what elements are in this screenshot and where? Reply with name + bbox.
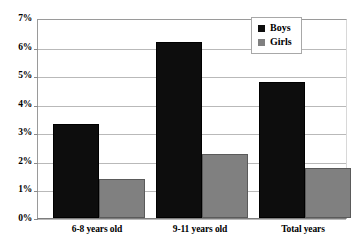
y-tick-label: 1% <box>18 186 32 196</box>
y-tick-label: 4% <box>18 100 32 110</box>
legend-label-boys: Boys <box>270 23 291 33</box>
y-tick-label: 2% <box>18 157 32 167</box>
bar-group <box>156 20 246 218</box>
legend-item-girls[interactable]: Girls <box>258 35 292 49</box>
y-tick-label: 5% <box>18 71 32 81</box>
y-tick-label: 0% <box>18 214 32 224</box>
bar-girls[interactable] <box>202 154 248 218</box>
bar-chart: 7% 6% 5% 4% 3% 2% 1% 0% <box>0 0 362 248</box>
legend-label-girls: Girls <box>270 37 292 47</box>
y-tick-label: 3% <box>18 129 32 139</box>
gridline <box>38 219 346 220</box>
x-category-label: Total years <box>281 224 325 234</box>
bar-group <box>53 20 143 218</box>
y-tickmark <box>34 219 38 220</box>
y-tick-label: 7% <box>18 14 32 24</box>
bar-boys[interactable] <box>53 124 99 218</box>
y-axis: 7% 6% 5% 4% 3% 2% 1% 0% <box>0 0 36 248</box>
y-tick-label: 6% <box>18 43 32 53</box>
legend: Boys Girls <box>251 17 302 54</box>
legend-swatch-girls-icon <box>258 39 265 46</box>
bar-girls[interactable] <box>305 168 351 218</box>
bar-boys[interactable] <box>259 82 305 218</box>
bar-boys[interactable] <box>156 42 202 218</box>
legend-item-boys[interactable]: Boys <box>258 21 292 35</box>
legend-swatch-boys-icon <box>258 25 265 32</box>
x-category-label: 9-11 years old <box>173 224 228 234</box>
x-axis: 6-8 years old 9-11 years old Total years <box>37 224 347 244</box>
x-category-label: 6-8 years old <box>72 224 122 234</box>
bar-girls[interactable] <box>99 179 145 218</box>
